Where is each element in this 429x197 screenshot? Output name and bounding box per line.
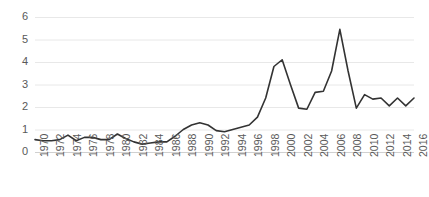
x-axis-tick-label: 2016 [418, 134, 429, 157]
x-axis-tick-label: 2008 [352, 134, 363, 157]
y-axis-tick-label: 6 [14, 11, 28, 22]
x-axis-tick-label: 1978 [105, 134, 116, 157]
x-axis-tick-label: 1984 [154, 134, 165, 157]
x-axis-tick-label: 2014 [402, 134, 413, 157]
x-axis-tick-label: 1976 [88, 134, 99, 157]
x-axis-tick-label: 2004 [319, 134, 330, 157]
x-axis-tick-label: 1974 [72, 134, 83, 157]
x-axis-tick-label: 1972 [55, 134, 66, 157]
x-axis-tick-label: 1998 [270, 134, 281, 157]
x-axis-tick-label: 1980 [121, 134, 132, 157]
y-axis-tick-label: 0 [14, 146, 28, 157]
x-axis-tick-label: 2000 [286, 134, 297, 157]
y-axis-tick-label: 5 [14, 34, 28, 45]
y-axis-tick-label: 2 [14, 101, 28, 112]
x-axis-tick-label: 1996 [253, 134, 264, 157]
x-axis-tick-label: 2006 [336, 134, 347, 157]
y-axis-tick-label: 4 [14, 56, 28, 67]
data-series-line [35, 29, 414, 144]
x-axis-tick-label: 2002 [303, 134, 314, 157]
x-axis-tick-label: 1986 [171, 134, 182, 157]
x-axis-tick-label: 1990 [204, 134, 215, 157]
x-axis-tick-label: 1988 [187, 134, 198, 157]
x-axis-tick-label: 2012 [385, 134, 396, 157]
x-axis-tick-label: 2010 [369, 134, 380, 157]
x-axis-tick-label: 1992 [220, 134, 231, 157]
x-axis-tick-label: 1994 [237, 134, 248, 157]
y-axis-tick-label: 3 [14, 79, 28, 90]
y-axis-tick-label: 1 [14, 124, 28, 135]
x-axis-tick-label: 1982 [138, 134, 149, 157]
x-axis-tick-label: 1970 [39, 134, 50, 157]
